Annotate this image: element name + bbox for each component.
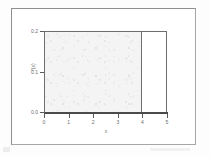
density-tail-region [142,31,167,112]
scan-artifact-bottom [150,148,190,151]
y-ticklabel-2: 0.2 [31,28,38,34]
x-tick-2 [93,114,94,118]
density-shaded-region [44,31,142,112]
y-axis-title: f(x) [30,59,36,75]
scan-noise-texture [45,32,141,112]
x-ticklabel-5: 5 [160,119,174,125]
x-tick-4 [142,114,143,118]
x-tick-0 [44,114,45,118]
x-ticklabel-2: 2 [86,119,100,125]
x-tick-1 [69,114,70,118]
y-tick-1 [40,72,44,73]
x-axis-line [44,112,168,114]
x-ticklabel-0: 0 [37,119,51,125]
chart-screenshot: 0 1 2 3 4 5 0.0 0.1 0.2 x f(x) [0,0,210,156]
x-ticklabel-3: 3 [111,119,125,125]
y-tick-2 [40,31,44,32]
plot-area [44,31,167,112]
y-tick-0 [40,112,44,113]
y-ticklabel-0: 0.0 [31,109,38,115]
figure-frame: 0 1 2 3 4 5 0.0 0.1 0.2 x f(x) [11,8,196,145]
x-tick-3 [118,114,119,118]
x-tick-5 [167,114,168,118]
figure-canvas: 0 1 2 3 4 5 0.0 0.1 0.2 x f(x) [12,9,197,146]
x-ticklabel-1: 1 [62,119,76,125]
x-axis-title: x [44,128,168,134]
y-axis-line [44,31,45,113]
x-ticklabel-4: 4 [135,119,149,125]
scan-artifact-left [3,147,10,152]
